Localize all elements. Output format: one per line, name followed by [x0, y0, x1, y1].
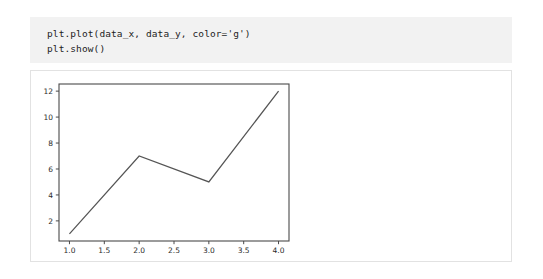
code-line-1: plt.plot(data_x, data_y, color='g')	[47, 26, 512, 41]
x-tick-label: 2.0	[133, 246, 145, 255]
x-tick-label: 2.5	[168, 246, 180, 255]
code-cell[interactable]: plt.plot(data_x, data_y, color='g') plt.…	[30, 17, 512, 63]
x-tick-label: 3.0	[203, 246, 215, 255]
y-tick-label: 10	[43, 113, 53, 122]
matplotlib-figure: 1.01.52.02.53.03.54.024681012	[36, 74, 321, 256]
code-output-card: 1.01.52.02.53.03.54.024681012	[30, 70, 512, 262]
y-tick-label: 4	[48, 191, 53, 200]
y-tick-label: 6	[48, 165, 53, 174]
y-tick-label: 8	[48, 139, 53, 148]
x-tick-label: 1.5	[98, 246, 110, 255]
line-chart: 1.01.52.02.53.03.54.024681012	[36, 74, 321, 256]
x-tick-label: 1.0	[63, 246, 75, 255]
x-tick-label: 4.0	[273, 246, 285, 255]
plot-area-background	[59, 84, 289, 241]
y-tick-label: 2	[48, 217, 53, 226]
code-line-2: plt.show()	[47, 41, 512, 56]
y-tick-label: 12	[43, 87, 53, 96]
x-tick-label: 3.5	[238, 246, 250, 255]
